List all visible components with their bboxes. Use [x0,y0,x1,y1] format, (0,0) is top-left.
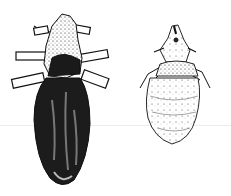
lice-illustration [0,0,231,196]
louse-dark [12,14,109,185]
abdomen-right-louse [146,78,199,144]
louse-light [140,25,210,144]
illustration-canvas [0,0,231,196]
abdomen-left-louse [34,78,90,185]
